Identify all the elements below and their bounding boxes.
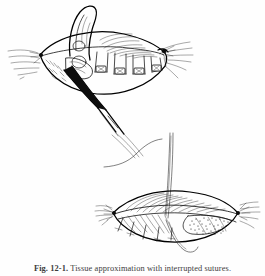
tension-lines-left xyxy=(8,50,40,79)
wound-ellipse xyxy=(40,32,167,94)
figure-page: Fig. 12-1. Tissue approximation with int… xyxy=(0,0,265,276)
figure-caption: Fig. 12-1. Tissue approximation with int… xyxy=(0,263,265,274)
stipple-dots xyxy=(189,217,228,234)
lower-panel xyxy=(95,131,260,252)
figure-caption-text: Tissue approximation with interrupted su… xyxy=(70,264,231,273)
stitch xyxy=(154,227,161,241)
tension-lines-right xyxy=(163,42,193,78)
stippled-tissue xyxy=(183,215,232,234)
figure-caption-label: Fig. 12-1. xyxy=(34,264,68,273)
upper-panel xyxy=(8,6,193,136)
stitch-row-lower xyxy=(115,218,175,241)
curved-thread-tails xyxy=(104,131,162,167)
forceps-instrument[interactable] xyxy=(64,66,124,136)
surgical-illustration xyxy=(0,0,265,262)
thread-loop-bottom xyxy=(166,220,198,252)
suture-stitch xyxy=(95,52,108,72)
tension-lines-left xyxy=(95,206,112,225)
suture-stitch xyxy=(151,57,162,72)
inner-lip-hatching xyxy=(122,215,174,234)
hatching-shading-upper xyxy=(100,34,157,58)
